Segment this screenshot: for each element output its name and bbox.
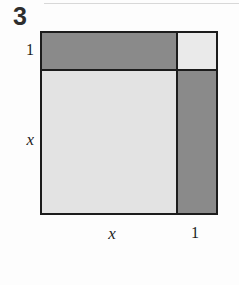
region-top-left-x-by-1 (42, 33, 178, 71)
area-model-square (40, 31, 218, 215)
algebra-area-model-figure: 3 1 x x 1 (0, 0, 239, 285)
region-bottom-left-x-by-x (42, 71, 178, 213)
left-side-label-x: x (12, 132, 34, 148)
left-side-label-1: 1 (14, 42, 34, 58)
bottom-side-label-x: x (97, 226, 127, 242)
problem-number-label: 3 (13, 2, 27, 30)
region-top-right-1-by-1 (178, 33, 216, 71)
region-bottom-right-1-by-x (178, 71, 216, 213)
bottom-side-label-1: 1 (182, 225, 208, 241)
